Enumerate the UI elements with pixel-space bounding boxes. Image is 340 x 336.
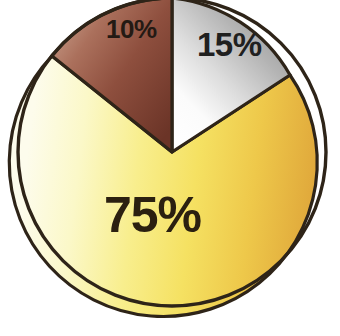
pie-chart-figure: 75% 15% 10% bbox=[0, 0, 340, 336]
pie-chart-svg bbox=[0, 0, 340, 336]
pie-slice-label-10: 10% bbox=[106, 16, 157, 42]
pie-slice-label-15: 15% bbox=[197, 28, 262, 61]
pie-slice-label-75: 75% bbox=[104, 190, 201, 240]
